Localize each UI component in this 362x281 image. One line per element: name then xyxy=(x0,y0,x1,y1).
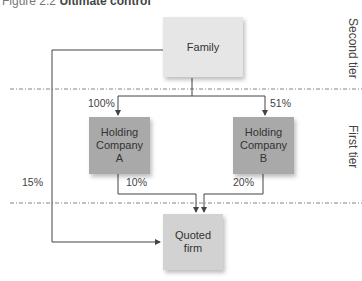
node-holding-company-a: Holding Company A xyxy=(89,117,150,174)
edge-label-family-b: 51% xyxy=(270,97,291,109)
edge-label-b-quoted: 20% xyxy=(233,176,254,188)
node-a-line2: Company xyxy=(96,139,143,152)
tier-label-first: First tier xyxy=(346,125,360,168)
tier-label-second: Second tier xyxy=(346,18,360,79)
node-family: Family xyxy=(163,17,243,77)
node-a-line3: A xyxy=(116,152,123,165)
node-b-line2: Company xyxy=(240,139,287,152)
node-quoted-line2: firm xyxy=(184,242,202,255)
node-b-line3: B xyxy=(260,152,267,165)
edge-label-family-a: 100% xyxy=(88,97,115,109)
node-quoted-line1: Quoted xyxy=(175,229,211,242)
node-family-label: Family xyxy=(187,41,219,54)
node-quoted-firm: Quoted firm xyxy=(163,214,223,270)
edge-label-a-quoted: 10% xyxy=(126,176,147,188)
edge-label-family-quoted: 15% xyxy=(22,176,43,188)
node-b-line1: Holding xyxy=(245,126,282,139)
node-a-line1: Holding xyxy=(101,126,138,139)
node-holding-company-b: Holding Company B xyxy=(233,117,294,174)
